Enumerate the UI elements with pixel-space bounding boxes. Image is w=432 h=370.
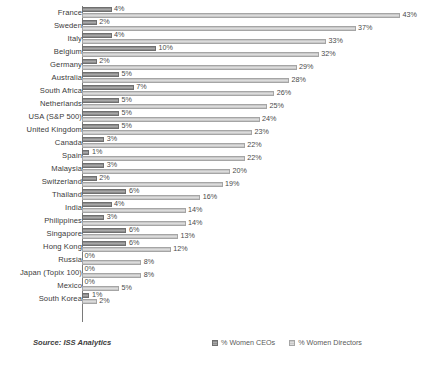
bar-ceo[interactable] bbox=[82, 46, 156, 51]
bar-value-label: 29% bbox=[299, 63, 313, 71]
category-label: United Kingdom bbox=[0, 123, 82, 136]
bar-dir[interactable] bbox=[82, 299, 97, 304]
bar-line: 4% bbox=[82, 7, 432, 12]
bar-dir[interactable] bbox=[82, 117, 260, 122]
category-label: Netherlands bbox=[0, 97, 82, 110]
bar-dir[interactable] bbox=[82, 143, 245, 148]
bar-value-label: 33% bbox=[329, 37, 343, 45]
bar-ceo[interactable] bbox=[82, 137, 104, 142]
bar-value-label: 12% bbox=[173, 245, 187, 253]
chart-row: Hong Kong6%12% bbox=[0, 240, 432, 253]
bar-dir[interactable] bbox=[82, 13, 400, 18]
bar-ceo[interactable] bbox=[82, 7, 112, 12]
bar-line: 24% bbox=[82, 117, 432, 122]
category-label: Italy bbox=[0, 32, 82, 45]
bar-group: 4%33% bbox=[82, 32, 432, 45]
bar-line: 6% bbox=[82, 228, 432, 233]
bar-line: 3% bbox=[82, 215, 432, 220]
legend-item-women-ceos[interactable]: % Women CEOs bbox=[212, 338, 275, 347]
category-label: Hong Kong bbox=[0, 240, 82, 253]
bar-value-label: 26% bbox=[277, 89, 291, 97]
bar-line: 8% bbox=[82, 260, 432, 265]
bar-ceo[interactable] bbox=[82, 85, 134, 90]
bar-value-label: 8% bbox=[144, 258, 154, 266]
legend-swatch-icon-women-ceos bbox=[212, 340, 218, 346]
category-label: Russia bbox=[0, 253, 82, 266]
bar-line: 2% bbox=[82, 176, 432, 181]
bar-group: 6%12% bbox=[82, 240, 432, 253]
bar-value-label: 28% bbox=[292, 76, 306, 84]
chart-footer: Source: ISS Analytics % Women CEOs % Wom… bbox=[0, 336, 432, 356]
chart-container: France4%43%Sweden2%37%Italy4%33%Belgium1… bbox=[0, 0, 432, 370]
category-label: Spain bbox=[0, 149, 82, 162]
bar-line: 16% bbox=[82, 195, 432, 200]
category-label: Malaysia bbox=[0, 162, 82, 175]
bar-dir[interactable] bbox=[82, 39, 326, 44]
bar-dir[interactable] bbox=[82, 78, 289, 83]
bar-ceo[interactable] bbox=[82, 176, 97, 181]
chart-row: Japan (Topix 100)0%8% bbox=[0, 266, 432, 279]
category-label: Singapore bbox=[0, 227, 82, 240]
bar-ceo[interactable] bbox=[82, 98, 119, 103]
bar-line: 14% bbox=[82, 208, 432, 213]
bar-ceo[interactable] bbox=[82, 111, 119, 116]
bar-dir[interactable] bbox=[82, 182, 223, 187]
bar-ceo[interactable] bbox=[82, 293, 89, 298]
bar-group: 1%22% bbox=[82, 149, 432, 162]
bar-group: 4%14% bbox=[82, 201, 432, 214]
bar-ceo[interactable] bbox=[82, 124, 119, 129]
bar-dir[interactable] bbox=[82, 65, 297, 70]
bar-line: 2% bbox=[82, 299, 432, 304]
bar-dir[interactable] bbox=[82, 208, 186, 213]
bar-ceo[interactable] bbox=[82, 215, 104, 220]
chart-row: Switzerland2%19% bbox=[0, 175, 432, 188]
bar-value-label: 19% bbox=[225, 180, 239, 188]
bar-dir[interactable] bbox=[82, 91, 274, 96]
bar-value-label: 14% bbox=[188, 219, 202, 227]
bar-value-label: 16% bbox=[203, 193, 217, 201]
bar-group: 5%28% bbox=[82, 71, 432, 84]
bar-ceo[interactable] bbox=[82, 33, 112, 38]
chart-row: Germany2%29% bbox=[0, 58, 432, 71]
bar-dir[interactable] bbox=[82, 195, 200, 200]
chart-legend: % Women CEOs % Women Directors bbox=[212, 338, 362, 347]
bar-value-label: 23% bbox=[255, 128, 269, 136]
category-label: Mexico bbox=[0, 279, 82, 292]
chart-row: Mexico0%5% bbox=[0, 279, 432, 292]
bar-dir[interactable] bbox=[82, 104, 267, 109]
bar-line: 5% bbox=[82, 286, 432, 291]
chart-row: USA (S&P 500)5%24% bbox=[0, 110, 432, 123]
chart-row: South Africa7%26% bbox=[0, 84, 432, 97]
bar-group: 6%16% bbox=[82, 188, 432, 201]
plot-area: France4%43%Sweden2%37%Italy4%33%Belgium1… bbox=[0, 6, 432, 328]
bar-ceo[interactable] bbox=[82, 150, 89, 155]
bar-ceo[interactable] bbox=[82, 189, 126, 194]
bar-value-label: 8% bbox=[144, 271, 154, 279]
bar-ceo[interactable] bbox=[82, 72, 119, 77]
category-label: Canada bbox=[0, 136, 82, 149]
bar-value-label: 5% bbox=[122, 284, 132, 292]
bar-line: 8% bbox=[82, 273, 432, 278]
bar-ceo[interactable] bbox=[82, 163, 104, 168]
bar-group: 1%2% bbox=[82, 292, 432, 305]
bar-dir[interactable] bbox=[82, 247, 171, 252]
bar-line: 10% bbox=[82, 46, 432, 51]
category-label: India bbox=[0, 201, 82, 214]
bar-line: 22% bbox=[82, 156, 432, 161]
bar-ceo[interactable] bbox=[82, 202, 112, 207]
bar-group: 0%8% bbox=[82, 253, 432, 266]
category-label: Philippines bbox=[0, 214, 82, 227]
bar-ceo[interactable] bbox=[82, 241, 126, 246]
bar-line: 25% bbox=[82, 104, 432, 109]
bar-dir[interactable] bbox=[82, 52, 319, 57]
bar-ceo[interactable] bbox=[82, 59, 97, 64]
category-label: Australia bbox=[0, 71, 82, 84]
bar-value-label: 22% bbox=[247, 154, 261, 162]
legend-item-women-directors[interactable]: % Women Directors bbox=[289, 338, 362, 347]
category-label: France bbox=[0, 6, 82, 19]
chart-row: Italy4%33% bbox=[0, 32, 432, 45]
bar-value-label: 25% bbox=[269, 102, 283, 110]
bar-ceo[interactable] bbox=[82, 228, 126, 233]
bar-ceo[interactable] bbox=[82, 20, 97, 25]
legend-label-women-directors: % Women Directors bbox=[298, 338, 362, 347]
